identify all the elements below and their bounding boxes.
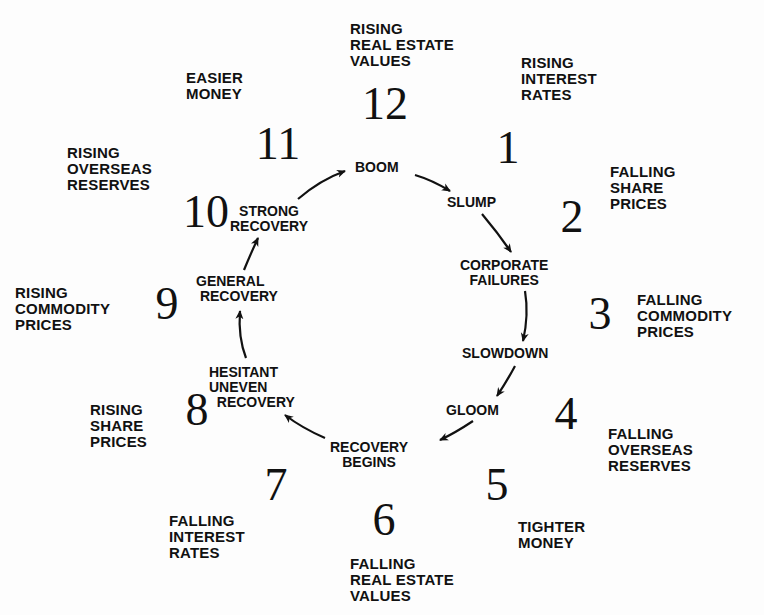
outer-label-10: RISING OVERSEAS RESERVES: [67, 145, 152, 193]
outer-label-2: FALLING SHARE PRICES: [610, 164, 676, 212]
clock-number-7: 7: [265, 462, 288, 508]
stage-slump: SLUMP: [447, 195, 496, 210]
arrow-general-to-strong-recovery: [244, 238, 258, 270]
stage-recovery-begins: RECOVERY BEGINS: [330, 440, 408, 470]
stage-general-recovery: GENERAL RECOVERY: [196, 274, 278, 304]
stage-hesitant-uneven-recovery: HESITANT UNEVEN RECOVERY: [209, 365, 295, 410]
stage-gloom: GLOOM: [446, 403, 499, 418]
clock-number-10: 10: [183, 189, 229, 235]
clock-number-12: 12: [362, 81, 408, 127]
clock-number-4: 4: [555, 391, 578, 437]
stage-corporate-failures: CORPORATE FAILURES: [460, 258, 548, 288]
clock-number-3: 3: [589, 291, 612, 337]
outer-label-3: FALLING COMMODITY PRICES: [637, 292, 732, 340]
clock-number-9: 9: [156, 281, 179, 327]
arrow-slowdown-to-gloom: [497, 366, 515, 396]
outer-label-7: FALLING INTEREST RATES: [169, 513, 245, 561]
outer-label-11: EASIER MONEY: [186, 70, 243, 102]
arrow-recovery-begins-to-hesitant: [285, 415, 325, 438]
clock-number-2: 2: [561, 194, 584, 240]
stage-boom: BOOM: [355, 160, 399, 175]
outer-label-1: RISING INTEREST RATES: [521, 55, 597, 103]
arrow-slump-to-corporate-failures: [482, 214, 511, 252]
arrow-corporate-failures-to-slowdown: [523, 291, 527, 341]
clock-number-11: 11: [256, 121, 300, 167]
clock-number-6: 6: [373, 497, 396, 543]
outer-label-8: RISING SHARE PRICES: [90, 402, 147, 450]
outer-label-12: RISING REAL ESTATE VALUES: [350, 21, 454, 69]
stage-strong-recovery: STRONG RECOVERY: [230, 204, 308, 234]
stage-slowdown: SLOWDOWN: [462, 346, 548, 361]
outer-label-5: TIGHTER MONEY: [518, 519, 585, 551]
outer-label-6: FALLING REAL ESTATE VALUES: [350, 556, 454, 604]
clock-number-8: 8: [186, 387, 209, 433]
outer-label-9: RISING COMMODITY PRICES: [15, 285, 110, 333]
economic-cycle-diagram: 12 1 2 3 4 5 6 7 8 9 10 11 RISING REAL E…: [0, 0, 764, 615]
arrow-boom-to-slump: [415, 175, 450, 191]
clock-number-5: 5: [486, 462, 509, 508]
clock-number-1: 1: [497, 125, 520, 171]
arrow-hesitant-to-general-recovery: [240, 311, 246, 358]
arrow-strong-recovery-to-boom: [298, 171, 345, 199]
arrow-gloom-to-recovery-begins: [440, 421, 473, 440]
outer-label-4: FALLING OVERSEAS RESERVES: [608, 426, 693, 474]
